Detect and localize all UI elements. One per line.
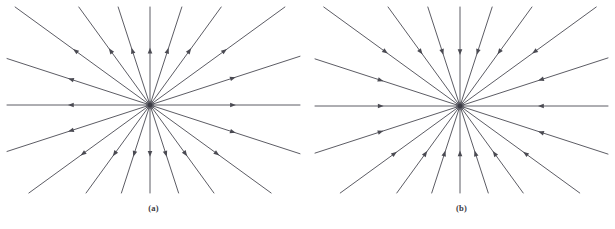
flow-arrowhead	[474, 151, 478, 157]
flow-arrowhead	[458, 49, 463, 55]
flow-arrowhead	[523, 152, 529, 157]
flow-arrowhead	[68, 128, 74, 132]
phase-portrait-figure: (a) (b)	[0, 0, 615, 229]
flow-arrowhead	[68, 78, 74, 82]
flow-arrowhead	[163, 150, 167, 156]
panel-a-plot	[0, 0, 307, 200]
trajectory-ray	[460, 106, 523, 193]
panel-a-vector-field	[0, 0, 307, 200]
trajectory-ray	[315, 106, 460, 153]
trajectory-ray	[79, 7, 150, 105]
flow-arrowhead	[458, 150, 463, 156]
flow-arrowhead	[221, 49, 227, 54]
flow-arrowhead	[113, 150, 118, 156]
trajectory-ray	[460, 7, 492, 106]
flow-arrowhead	[377, 130, 383, 134]
trajectory-ray	[121, 105, 150, 193]
trajectory-ray	[324, 7, 460, 106]
trajectory-ray	[150, 105, 214, 193]
flow-arrowhead	[493, 151, 498, 157]
trajectory-ray	[460, 106, 608, 154]
trajectory-ray	[428, 7, 460, 106]
flow-arrowhead	[417, 48, 422, 54]
panel-b-plot	[308, 0, 615, 200]
trajectory-ray	[397, 106, 460, 193]
trajectory-ray	[460, 58, 608, 106]
flow-arrowhead	[422, 151, 427, 157]
trajectory-ray	[150, 105, 271, 193]
flow-arrowhead	[382, 48, 388, 53]
flow-arrowhead	[148, 48, 153, 54]
trajectory-ray	[460, 7, 532, 106]
flow-arrowhead	[498, 48, 503, 54]
flow-arrowhead	[538, 131, 544, 135]
trajectory-ray	[86, 105, 150, 193]
flow-arrowhead	[186, 48, 191, 54]
trajectory-ray	[432, 106, 460, 193]
trajectory-ray	[150, 7, 182, 105]
flow-arrowhead	[391, 152, 397, 157]
flow-arrowhead	[133, 150, 137, 156]
trajectory-ray	[7, 105, 150, 151]
flow-arrowhead	[439, 49, 443, 55]
panel-b: (b)	[308, 0, 615, 229]
trajectory-ray	[460, 106, 580, 193]
flow-arrowhead	[230, 103, 236, 108]
equilibrium-point	[458, 104, 462, 108]
flow-arrowhead	[538, 77, 544, 81]
flow-arrowhead	[230, 77, 236, 81]
trajectory-ray	[340, 106, 460, 193]
flow-arrowhead	[230, 129, 236, 133]
flow-arrowhead	[81, 150, 87, 155]
ray-group	[7, 7, 300, 193]
trajectory-ray	[15, 7, 150, 105]
trajectory-ray	[388, 7, 460, 106]
flow-arrowhead	[476, 49, 480, 55]
equilibrium-point	[148, 103, 152, 107]
flow-arrowhead	[378, 104, 384, 109]
flow-arrowhead	[213, 150, 219, 155]
flow-arrowhead	[73, 49, 79, 54]
trajectory-ray	[150, 56, 300, 105]
ray-group	[315, 7, 608, 193]
trajectory-ray	[150, 105, 179, 193]
panel-a: (a)	[0, 0, 307, 229]
flow-arrowhead	[131, 48, 135, 54]
flow-arrowhead	[109, 48, 114, 54]
trajectory-ray	[150, 105, 300, 154]
trajectory-ray	[29, 105, 150, 193]
trajectory-ray	[150, 7, 285, 105]
trajectory-ray	[118, 7, 150, 105]
flow-arrowhead	[165, 48, 169, 54]
trajectory-ray	[150, 7, 221, 105]
trajectory-ray	[460, 7, 596, 106]
flow-arrowhead	[148, 151, 153, 157]
flow-arrowhead	[538, 104, 544, 109]
trajectory-ray	[315, 59, 460, 106]
flow-arrowhead	[68, 103, 74, 108]
panel-b-vector-field	[308, 0, 615, 200]
panel-b-caption: (b)	[308, 203, 615, 214]
panel-a-caption: (a)	[0, 203, 307, 214]
trajectory-ray	[7, 59, 150, 105]
flow-arrowhead	[532, 48, 538, 53]
flow-arrowhead	[377, 77, 383, 81]
flow-arrowhead	[442, 151, 446, 157]
flow-arrowhead	[182, 150, 187, 156]
trajectory-ray	[460, 106, 488, 193]
